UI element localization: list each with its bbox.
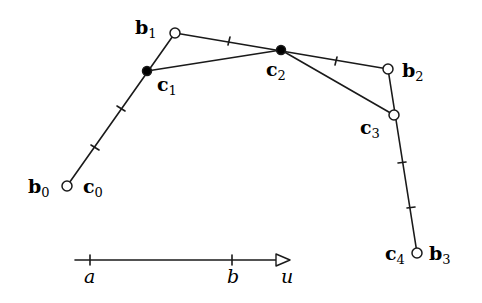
label-c2: c2: [266, 58, 286, 83]
point-b1: [170, 28, 180, 38]
tick-mark: [407, 207, 415, 208]
axis-label-u: u: [281, 265, 293, 287]
point-c2: [277, 46, 286, 55]
label-c1: c1: [157, 73, 177, 98]
edge-b0-b1: [67, 33, 175, 186]
edge-c1-c2: [147, 50, 281, 71]
label-c3: c3: [360, 116, 380, 141]
tick-mark: [398, 162, 406, 163]
point-c3: [389, 110, 399, 120]
tick-mark: [228, 37, 230, 45]
label-c0: c0: [83, 175, 103, 200]
point-b2: [383, 64, 393, 74]
point-b0-c0: [62, 181, 72, 191]
axis-label-a: a: [84, 265, 95, 287]
axis-label-b: b: [227, 265, 239, 287]
point-c4-b3: [412, 248, 422, 258]
point-c1: [143, 67, 152, 76]
label-b0: b0: [28, 175, 50, 200]
label-b2: b2: [402, 59, 424, 84]
edge-b2-b3: [388, 69, 417, 253]
label-b1: b1: [135, 16, 157, 41]
label-c4: c4: [385, 242, 405, 267]
diagram-canvas: b0 c0 b1 c1 c2 b2 c3 c4 b3 a b u: [0, 0, 482, 303]
label-b3: b3: [429, 242, 451, 267]
bezier-diagram: b0 c0 b1 c1 c2 b2 c3 c4 b3 a b u: [0, 0, 482, 303]
tick-mark: [335, 57, 337, 65]
